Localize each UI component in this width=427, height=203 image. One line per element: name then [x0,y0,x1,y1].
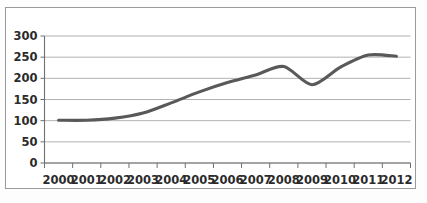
x-tick-marks-group [45,163,411,168]
data-series-line [59,55,397,121]
line-chart-plot: 050100150200250300 200020012002200320042… [0,0,427,203]
y-tick-label: 0 [29,156,37,170]
y-tick-label: 150 [13,93,37,107]
x-tick-label: 2012 [380,173,412,187]
y-axis-tick-labels: 050100150200250300 [13,29,37,170]
chart-figure: 050100150200250300 200020012002200320042… [0,0,427,203]
y-tick-label: 100 [13,114,37,128]
y-tick-label: 300 [13,29,37,43]
y-tick-label: 200 [13,71,37,85]
gridlines-group [45,36,411,163]
x-axis-tick-labels: 2000200120022003200420052006200720082009… [43,173,413,187]
y-tick-label: 250 [13,50,37,64]
y-tick-label: 50 [21,135,37,149]
y-tick-marks-group [41,36,45,163]
